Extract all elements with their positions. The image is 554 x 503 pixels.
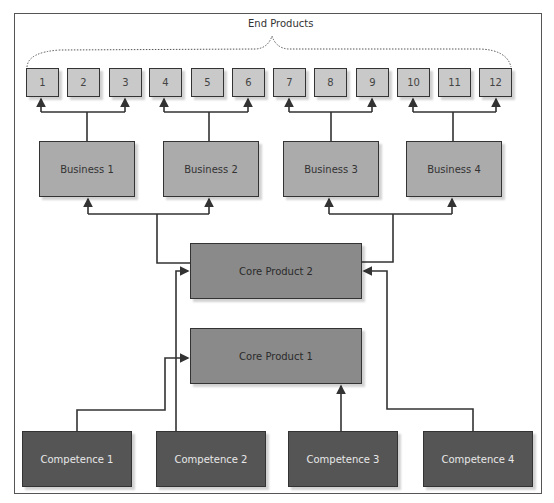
core-product-2: Core Product 2: [190, 243, 362, 299]
end-product-10: 10: [397, 68, 430, 97]
business-2: Business 2: [163, 141, 259, 197]
end-product-1: 1: [26, 68, 59, 97]
end-product-8: 8: [314, 68, 347, 97]
competence-3: Competence 3: [288, 431, 398, 487]
end-product-6: 6: [232, 68, 265, 97]
competence-1: Competence 1: [22, 431, 132, 487]
end-product-5: 5: [191, 68, 224, 97]
business-1: Business 1: [39, 141, 135, 197]
end-product-3: 3: [109, 68, 142, 97]
end-product-11: 11: [438, 68, 471, 97]
end-product-7: 7: [273, 68, 306, 97]
core-product-1: Core Product 1: [190, 328, 362, 384]
end-product-4: 4: [149, 68, 182, 97]
end-product-9: 9: [356, 68, 389, 97]
end-product-2: 2: [67, 68, 100, 97]
competence-4: Competence 4: [423, 431, 533, 487]
end-product-12: 12: [479, 68, 512, 97]
business-3: Business 3: [283, 141, 379, 197]
competence-2: Competence 2: [156, 431, 266, 487]
business-4: Business 4: [406, 141, 502, 197]
